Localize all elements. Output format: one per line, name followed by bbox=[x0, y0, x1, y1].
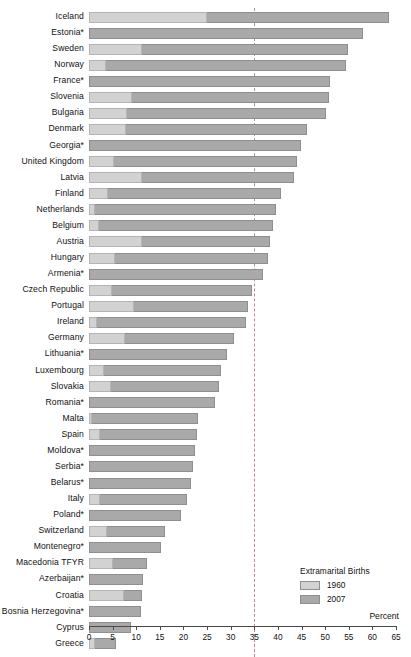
x-axis-tick-label: 35 bbox=[243, 632, 265, 642]
bar-2007 bbox=[89, 269, 263, 280]
bar-area bbox=[89, 60, 401, 71]
bar-area bbox=[89, 220, 401, 231]
bar-1960 bbox=[89, 285, 112, 296]
bar-2007 bbox=[89, 494, 187, 505]
bar-1960 bbox=[89, 590, 124, 601]
bar-2007 bbox=[89, 253, 268, 264]
bar-1960 bbox=[89, 558, 113, 569]
legend-label-2007: 2007 bbox=[327, 594, 345, 604]
bar-1960 bbox=[89, 44, 142, 55]
x-axis-tick-label: 45 bbox=[291, 632, 313, 642]
table-row: Netherlands bbox=[0, 203, 411, 219]
bar-2007 bbox=[89, 510, 181, 521]
country-label: France* bbox=[0, 75, 84, 86]
country-label: Switzerland bbox=[0, 525, 84, 536]
bar-1960 bbox=[89, 12, 207, 23]
bar-1960 bbox=[89, 253, 115, 264]
table-row: Luxembourg bbox=[0, 364, 411, 380]
legend-swatch-1960 bbox=[300, 581, 320, 590]
bar-area bbox=[89, 76, 401, 87]
table-row: Belarus* bbox=[0, 476, 411, 492]
table-row: Sweden bbox=[0, 42, 411, 58]
bar-2007 bbox=[89, 317, 246, 328]
country-label: Hungary bbox=[0, 252, 84, 263]
bar-area bbox=[89, 365, 401, 376]
bar-1960 bbox=[89, 429, 100, 440]
x-axis-tick bbox=[207, 626, 208, 630]
legend-label-1960: 1960 bbox=[327, 580, 345, 590]
bar-2007 bbox=[89, 188, 281, 199]
bar-area bbox=[89, 413, 401, 424]
bar-area bbox=[89, 333, 401, 344]
country-label: Spain bbox=[0, 429, 84, 440]
bar-area bbox=[89, 606, 401, 617]
country-label: Cyprus bbox=[0, 622, 84, 633]
country-label: Belgium bbox=[0, 220, 84, 231]
table-row: Montenegro* bbox=[0, 540, 411, 556]
bar-2007 bbox=[89, 140, 301, 151]
bar-area bbox=[89, 124, 401, 135]
table-row: Lithuania* bbox=[0, 347, 411, 363]
bar-2007 bbox=[89, 461, 193, 472]
bar-2007 bbox=[89, 365, 221, 376]
x-axis-tick bbox=[136, 626, 137, 630]
country-label: Romania* bbox=[0, 397, 84, 408]
legend-swatch-2007 bbox=[300, 595, 320, 604]
x-axis-tick bbox=[231, 626, 232, 630]
bar-area bbox=[89, 478, 401, 489]
bar-area bbox=[89, 140, 401, 151]
x-axis-tick bbox=[396, 626, 397, 630]
country-label: Finland bbox=[0, 188, 84, 199]
bar-area bbox=[89, 204, 401, 215]
country-label: Sweden bbox=[0, 43, 84, 54]
bar-area bbox=[89, 542, 401, 553]
country-label: Ireland bbox=[0, 316, 84, 327]
bar-1960 bbox=[89, 188, 108, 199]
table-row: Serbia* bbox=[0, 460, 411, 476]
bar-2007 bbox=[89, 349, 227, 360]
table-row: Moldova* bbox=[0, 444, 411, 460]
bar-area bbox=[89, 510, 401, 521]
table-row: Iceland bbox=[0, 10, 411, 26]
bar-1960 bbox=[89, 365, 104, 376]
table-row: Slovakia bbox=[0, 380, 411, 396]
bar-1960 bbox=[89, 204, 95, 215]
table-row: Armenia* bbox=[0, 267, 411, 283]
bar-1960 bbox=[89, 220, 99, 231]
table-row: Belgium bbox=[0, 219, 411, 235]
table-row: Italy bbox=[0, 492, 411, 508]
bar-2007 bbox=[89, 445, 195, 456]
x-axis-tick bbox=[349, 626, 350, 630]
x-axis-tick-label: 10 bbox=[125, 632, 147, 642]
x-axis-tick-label: 0 bbox=[78, 632, 100, 642]
x-axis-tick bbox=[113, 626, 114, 630]
country-label: Poland* bbox=[0, 509, 84, 520]
bar-1960 bbox=[89, 124, 126, 135]
bar-2007 bbox=[89, 204, 276, 215]
table-row: Finland bbox=[0, 187, 411, 203]
country-label: Montenegro* bbox=[0, 541, 84, 552]
bar-area bbox=[89, 12, 401, 23]
table-row: Portugal bbox=[0, 299, 411, 315]
bar-area bbox=[89, 301, 401, 312]
country-label: Azerbaijan* bbox=[0, 573, 84, 584]
country-label: Lithuania* bbox=[0, 348, 84, 359]
country-label: Slovenia bbox=[0, 91, 84, 102]
bar-1960 bbox=[89, 317, 97, 328]
country-label: Georgia* bbox=[0, 140, 84, 151]
x-axis-tick-label: 20 bbox=[172, 632, 194, 642]
country-label: Belarus* bbox=[0, 477, 84, 488]
bar-1960 bbox=[89, 156, 114, 167]
country-label: Netherlands bbox=[0, 204, 84, 215]
bar-area bbox=[89, 253, 401, 264]
country-label: Armenia* bbox=[0, 268, 84, 279]
table-row: Austria bbox=[0, 235, 411, 251]
bar-1960 bbox=[89, 172, 142, 183]
x-axis-tick-label: 5 bbox=[102, 632, 124, 642]
bar-1960 bbox=[89, 526, 107, 537]
x-axis-tick-label: 55 bbox=[338, 632, 360, 642]
bar-area bbox=[89, 44, 401, 55]
bar-2007 bbox=[89, 220, 273, 231]
bar-area bbox=[89, 429, 401, 440]
bar-area bbox=[89, 317, 401, 328]
